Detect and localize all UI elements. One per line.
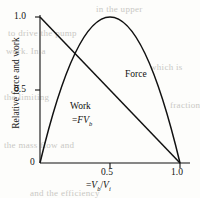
x-axis-title: =Vb/Vi [86,180,111,192]
y-tick-label-one: 1.0 [14,11,26,21]
y-tick-label-half: 0.5 [14,84,26,94]
x-tick-label-half: 0.5 [101,167,113,177]
figure-relative-force-and-work: in the upper to drive the pump work. In … [0,0,200,198]
x-axis-den-sub: i [109,185,111,192]
y-tick-label-zero: 0 [30,157,35,167]
y-axis-title: Relative force and work [11,18,21,148]
annotation-work: Work [70,101,91,111]
work-formula-sub: b [89,120,92,127]
x-axis-title-denominator: Vi [103,180,111,190]
annotation-force: Force [125,69,147,79]
annotation-work-formula: =FVb [72,115,92,127]
x-tick-label-one: 1.0 [171,167,183,177]
plot-svg [0,0,200,198]
